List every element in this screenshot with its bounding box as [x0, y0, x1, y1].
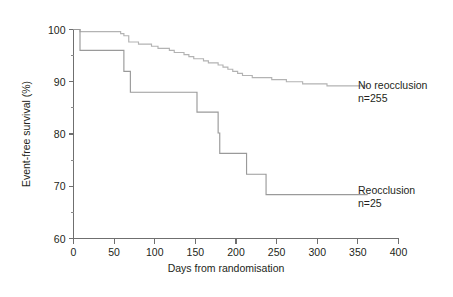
reocclusion-count: n=25	[358, 197, 382, 209]
y-tick-label-70: 70	[54, 180, 66, 192]
x-tick-label-0: 0	[71, 246, 77, 258]
x-tick-label-50: 50	[108, 246, 120, 258]
kaplan-meier-figure: 60708090100 050100150200250300350400 Day…	[0, 0, 453, 297]
no-reocclusion-count: n=255	[358, 92, 388, 104]
x-tick-label-150: 150	[187, 246, 205, 258]
x-axis-title: Days from randomisation	[168, 262, 285, 274]
y-tick-label-60: 60	[54, 233, 66, 245]
no-reocclusion-label: No reocclusion	[358, 79, 428, 91]
x-tick-label-350: 350	[349, 246, 367, 258]
x-tick-label-400: 400	[390, 246, 408, 258]
survival-chart: 60708090100 050100150200250300350400 Day…	[0, 0, 453, 297]
reocclusion-label: Reocclusion	[358, 184, 415, 196]
x-tick-label-200: 200	[227, 246, 245, 258]
y-axis-title: Event-free survival (%)	[20, 81, 32, 187]
y-tick-label-80: 80	[54, 128, 66, 140]
x-tick-label-100: 100	[146, 246, 164, 258]
y-tick-label-100: 100	[48, 24, 66, 36]
y-tick-label-90: 90	[54, 76, 66, 88]
x-tick-label-300: 300	[308, 246, 326, 258]
x-tick-label-250: 250	[268, 246, 286, 258]
